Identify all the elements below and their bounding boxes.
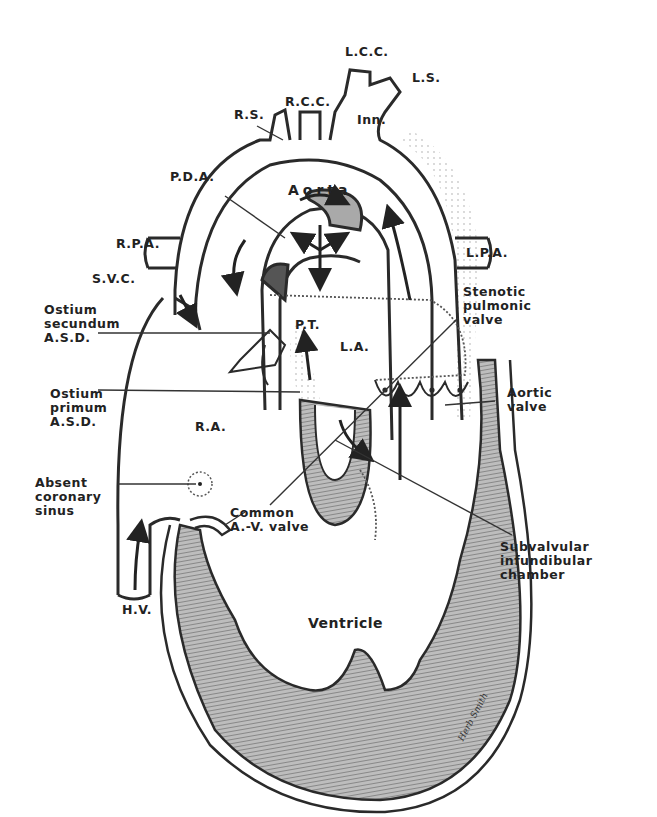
label-rs: R.S.: [234, 108, 264, 122]
infundibular-chamber: [300, 400, 371, 525]
label-aorta: Aorta: [288, 183, 352, 197]
label-inn: Inn.: [357, 113, 386, 127]
label-ostium-secundum: Ostium secundum A.S.D.: [44, 303, 120, 345]
label-rpa: R.P.A.: [116, 237, 160, 251]
label-ventricle: Ventricle: [308, 616, 383, 630]
label-lcc: L.C.C.: [345, 45, 389, 59]
label-ls: L.S.: [412, 71, 440, 85]
aortic-valve-cusps: [375, 380, 468, 396]
label-ra: R.A.: [195, 420, 226, 434]
label-aortic-valve: Aortic valve: [507, 386, 552, 414]
label-lpa: L.P.A.: [466, 246, 508, 260]
pulmonary-artery-branches: [145, 238, 491, 268]
label-common-av-valve: Common A.-V. valve: [230, 506, 309, 534]
label-hv: H.V.: [122, 603, 152, 617]
label-svc: S.V.C.: [92, 272, 136, 286]
label-la: L.A.: [340, 340, 369, 354]
septal-flaps: [230, 330, 285, 385]
label-pt: P.T.: [295, 318, 320, 332]
label-absent-coronary-sinus: Absent coronary sinus: [35, 476, 101, 518]
label-ostium-primum: Ostium primum A.S.D.: [50, 387, 107, 429]
label-pda: P.D.A.: [170, 170, 214, 184]
label-rcc: R.C.C.: [285, 95, 330, 109]
label-subvalvular-infundibular-chamber: Subvalvular infundibular chamber: [500, 540, 592, 582]
label-stenotic-pulmonic-valve: Stenotic pulmonic valve: [463, 285, 531, 327]
